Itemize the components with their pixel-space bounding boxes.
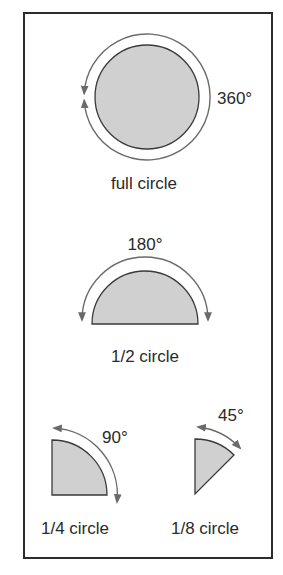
half-circle-degrees: 180° (127, 235, 162, 254)
circle-fractions-diagram: 360° full circle 180° 1/2 circle 90° 1/4… (0, 0, 283, 575)
full-circle-shape (95, 45, 199, 149)
half-circle-caption: 1/2 circle (111, 347, 179, 366)
eighth-circle-shape (195, 439, 234, 494)
quarter-circle-figure: 90° 1/4 circle (41, 428, 128, 538)
full-circle-caption: full circle (111, 174, 177, 193)
quarter-circle-caption: 1/4 circle (41, 519, 109, 538)
full-circle-figure: 360° full circle (84, 34, 252, 193)
eighth-circle-caption: 1/8 circle (171, 519, 239, 538)
eighth-circle-figure: 45° 1/8 circle (171, 406, 244, 538)
eighth-circle-degrees: 45° (218, 406, 244, 425)
full-circle-degrees: 360° (217, 89, 252, 108)
half-circle-figure: 180° 1/2 circle (82, 235, 208, 366)
half-circle-shape (92, 271, 198, 324)
quarter-circle-degrees: 90° (102, 428, 128, 447)
